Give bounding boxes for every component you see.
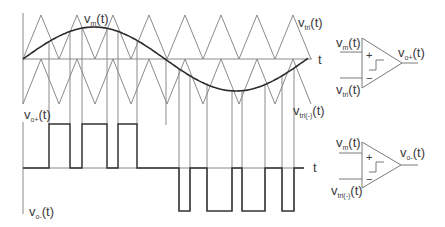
label-modulating: vm(t)	[84, 11, 109, 27]
lower-plot	[23, 122, 304, 214]
comparator-output-label: vo+(t)	[398, 45, 425, 61]
upper-triangular-carrier	[23, 15, 311, 59]
label-carrier-upper: vtri(t)	[298, 15, 323, 31]
comparator-positive: + − vm(t) vtri(t) vo+(t)	[336, 35, 425, 98]
comparator-negative: + − vm(t) vtri(-)(t) vo-(t)	[331, 135, 425, 200]
label-time-upper: t	[318, 52, 322, 67]
comparator-plus-input-label: vm(t)	[336, 135, 361, 151]
comparator-output-label: vo-(t)	[400, 145, 425, 161]
label-output-plus: vo+(t)	[24, 107, 51, 123]
lower-triangular-carrier	[23, 59, 311, 104]
comparator-plus-input-label: vm(t)	[336, 35, 361, 51]
plus-sign: +	[366, 151, 372, 163]
pwm-diagram: vm(t) vtri(t) t vtri(-)(t) vo+(t) t vo-(…	[0, 0, 445, 227]
label-output-minus: vo-(t)	[29, 204, 54, 220]
comparator-minus-input-label: vtri(t)	[336, 82, 361, 98]
comparator-minus-input-label: vtri(-)(t)	[331, 183, 363, 200]
minus-sign: −	[366, 173, 372, 185]
label-time-lower: t	[313, 160, 317, 175]
minus-sign: −	[366, 72, 372, 84]
plus-sign: +	[366, 49, 372, 61]
upper-plot	[23, 13, 312, 211]
hysteresis-step-icon	[369, 162, 384, 172]
switching-instant-lines	[49, 28, 294, 211]
label-carrier-lower: vtri(-)(t)	[293, 103, 325, 120]
hysteresis-step-icon	[369, 60, 384, 70]
